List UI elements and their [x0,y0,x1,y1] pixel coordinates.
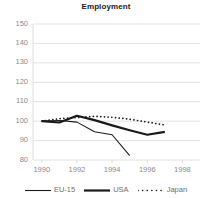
y-tick-label: 80 [4,156,28,164]
legend-swatch-usa [84,187,110,194]
x-tick-label: 1992 [62,166,92,174]
y-tick-label: 110 [4,97,28,105]
legend-item-usa[interactable]: USA [84,186,128,194]
chart-legend: EU-15 USA Japan [0,184,212,196]
legend-label-japan: Japan [167,186,187,194]
y-tick-label: 140 [4,39,28,47]
y-tick-label: 130 [4,58,28,66]
legend-item-japan[interactable]: Japan [138,186,187,194]
legend-swatch-eu-15 [25,187,51,194]
legend-item-eu-15[interactable]: EU-15 [25,186,75,194]
x-tick-label: 1996 [132,166,162,174]
y-tick-label: 100 [4,117,28,125]
y-tick-label: 90 [4,136,28,144]
y-tick-label: 150 [4,20,28,28]
legend-label-eu-15: EU-15 [54,186,75,194]
series-lines [42,116,165,156]
x-tick-label: 1998 [167,166,197,174]
y-tick-label: 120 [4,78,28,86]
legend-swatch-japan [138,187,164,194]
axis-lines [33,24,182,163]
x-tick-label: 1994 [97,166,127,174]
employment-chart: Employment 8090100110120130140150 199019… [0,0,212,198]
x-tick-label: 1990 [27,166,57,174]
legend-label-usa: USA [113,186,128,194]
